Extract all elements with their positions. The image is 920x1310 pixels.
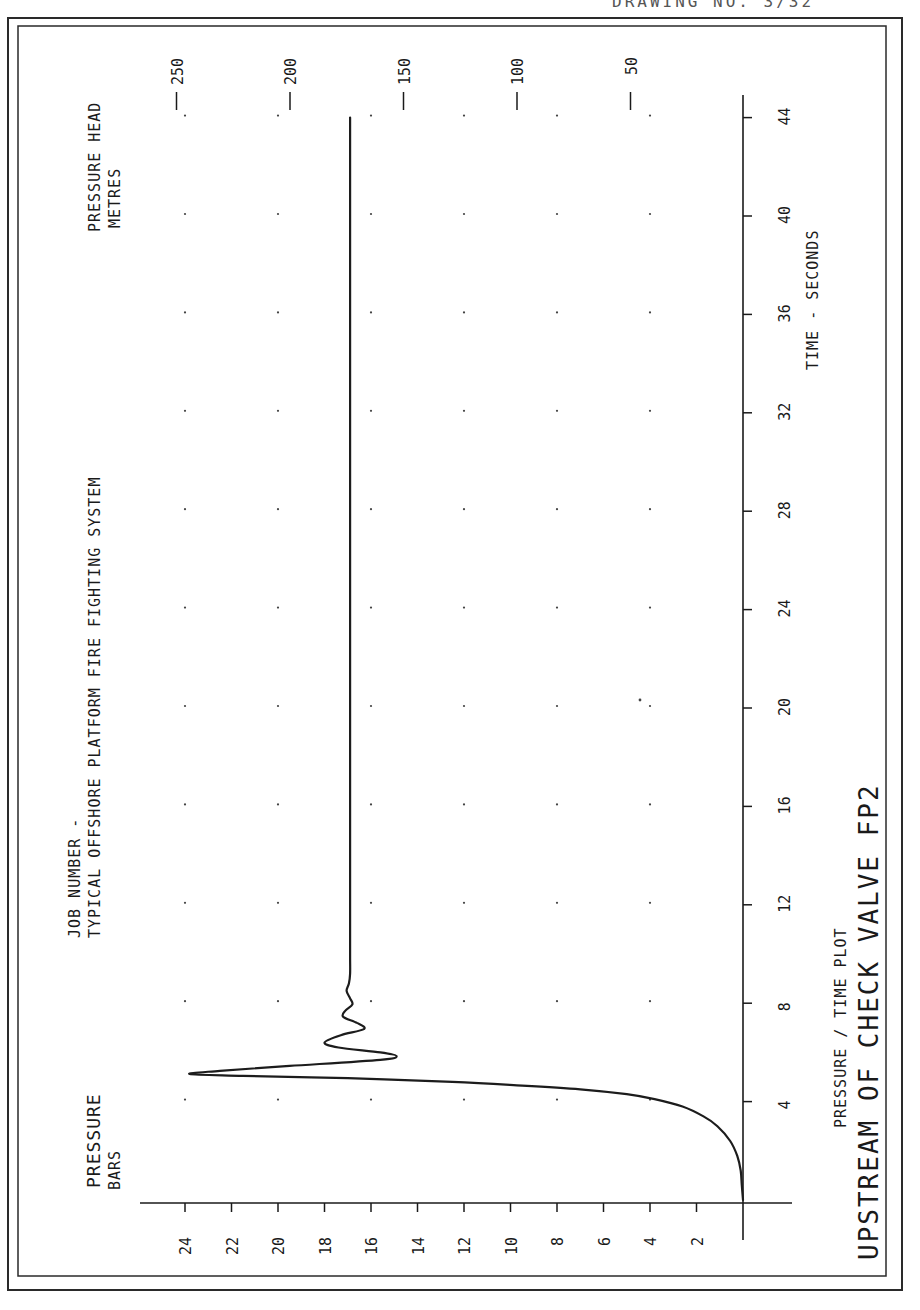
axes: [140, 95, 792, 1240]
grid-dot: [463, 213, 465, 215]
time-tick-label: 4: [776, 1101, 794, 1110]
system-title: TYPICAL OFFSHORE PLATFORM FIRE FIGHTING …: [86, 477, 104, 938]
grid-dot: [277, 607, 279, 609]
grid-dot: [556, 311, 558, 313]
grid-dot: [556, 1000, 558, 1002]
pressure-tick-label: 20: [270, 1237, 288, 1255]
grid-dot: [277, 902, 279, 904]
head-tick-label: 250: [169, 58, 187, 85]
head-axis-unit: METRES: [106, 168, 124, 228]
grid-dot: [370, 705, 372, 707]
grid-dot: [463, 607, 465, 609]
grid-dot: [649, 902, 651, 904]
grid-dot: [184, 705, 186, 707]
outer-border: [8, 18, 902, 1290]
time-tick-label: 28: [776, 501, 794, 519]
grid-dot: [277, 311, 279, 313]
time-tick-label: 32: [776, 403, 794, 421]
job-number-label: JOB NUMBER -: [66, 818, 84, 938]
time-tick-label: 44: [776, 108, 794, 126]
inner-border: [18, 26, 886, 1276]
grid-dot: [370, 115, 372, 117]
time-tick-label: 24: [776, 600, 794, 618]
chart-labels: 4812162024283236404424681012141618202224…: [66, 57, 884, 1260]
grid-dot: [277, 213, 279, 215]
time-tick-label: 8: [776, 1002, 794, 1011]
grid-dot: [370, 1000, 372, 1002]
grid-dot: [463, 115, 465, 117]
grid-dot: [370, 508, 372, 510]
head-tick-label: 100: [509, 58, 527, 85]
grid-dot: [277, 1099, 279, 1101]
drawing-frame: [8, 18, 902, 1290]
grid-dot: [556, 705, 558, 707]
grid-dot: [370, 213, 372, 215]
grid-dot: [370, 902, 372, 904]
time-tick-label: 20: [776, 698, 794, 716]
grid-dot: [277, 1000, 279, 1002]
time-axis-title: TIME - SECONDS: [804, 230, 822, 370]
grid-dot: [649, 508, 651, 510]
stray-dot: [639, 699, 642, 702]
grid-dot: [556, 607, 558, 609]
pressure-tick-label: 24: [177, 1237, 195, 1255]
grid-dot: [556, 508, 558, 510]
plot-type-label: PRESSURE / TIME PLOT: [832, 927, 850, 1128]
grid-dot: [184, 213, 186, 215]
grid-dot: [463, 508, 465, 510]
pressure-time-chart: 4812162024283236404424681012141618202224…: [0, 0, 920, 1310]
time-tick-label: 16: [776, 796, 794, 814]
grid-dot: [277, 803, 279, 805]
head-tick-label: 150: [396, 58, 414, 85]
grid-dot: [184, 508, 186, 510]
grid-dot: [649, 213, 651, 215]
grid-dot: [556, 902, 558, 904]
plot-title: UPSTREAM OF CHECK VALVE FP2: [854, 783, 884, 1260]
pressure-tick-label: 16: [363, 1237, 381, 1255]
grid-dot: [463, 1000, 465, 1002]
pressure-tick-label: 14: [410, 1237, 428, 1255]
grid-dot: [277, 410, 279, 412]
grid-dot: [370, 607, 372, 609]
grid-dot: [184, 902, 186, 904]
grid-dot: [649, 1000, 651, 1002]
grid-dot: [277, 115, 279, 117]
head-tick-label: 50: [623, 57, 641, 75]
pressure-curve: [189, 118, 743, 1200]
grid-dot: [277, 508, 279, 510]
grid-dot: [184, 1099, 186, 1101]
time-tick-label: 36: [776, 304, 794, 322]
grid-dot: [649, 705, 651, 707]
head-axis-title: PRESSURE HEAD: [86, 102, 104, 232]
grid-dot: [556, 115, 558, 117]
grid-dot: [277, 705, 279, 707]
pressure-axis-unit: BARS: [106, 1150, 124, 1190]
grid-dot: [184, 607, 186, 609]
grid-dot: [649, 115, 651, 117]
pressure-tick-label: 12: [456, 1237, 474, 1255]
grid-dot: [370, 803, 372, 805]
time-tick-label: 12: [776, 895, 794, 913]
pressure-tick-label: 22: [224, 1237, 242, 1255]
time-tick-label: 40: [776, 206, 794, 224]
grid-dot: [184, 803, 186, 805]
grid-dot: [556, 803, 558, 805]
grid-dot: [370, 311, 372, 313]
grid-dot: [556, 410, 558, 412]
grid-dot: [184, 410, 186, 412]
grid-dot: [463, 410, 465, 412]
grid-dot: [556, 213, 558, 215]
grid-dot: [463, 902, 465, 904]
grid-dot: [556, 1099, 558, 1101]
grid-dot: [370, 1099, 372, 1101]
grid-dot: [649, 803, 651, 805]
grid-dot: [649, 607, 651, 609]
grid-dot: [463, 705, 465, 707]
pressure-axis-title: PRESSURE: [83, 1093, 104, 1188]
pressure-tick-label: 2: [689, 1237, 707, 1246]
grid-dot: [649, 410, 651, 412]
pressure-tick-label: 8: [549, 1237, 567, 1246]
grid-dot: [184, 311, 186, 313]
grid-dot: [463, 311, 465, 313]
pressure-tick-label: 10: [503, 1237, 521, 1255]
